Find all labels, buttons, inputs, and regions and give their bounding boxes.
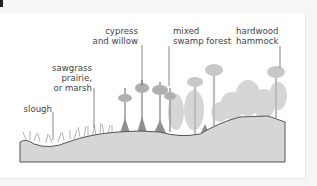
label-sawgrass-prairie: sawgrass prairie, or marsh <box>48 63 92 93</box>
palm-fronds <box>187 64 285 87</box>
label-cypress-willow: cypress and willow <box>88 26 138 46</box>
label-mixed-swamp-forest: mixed swamp forest <box>173 26 243 46</box>
cypress-canopies <box>118 83 176 102</box>
label-hardwood-hammock: hardwood hammock <box>236 26 296 46</box>
ground <box>20 116 285 162</box>
label-slough: slough <box>18 104 52 114</box>
